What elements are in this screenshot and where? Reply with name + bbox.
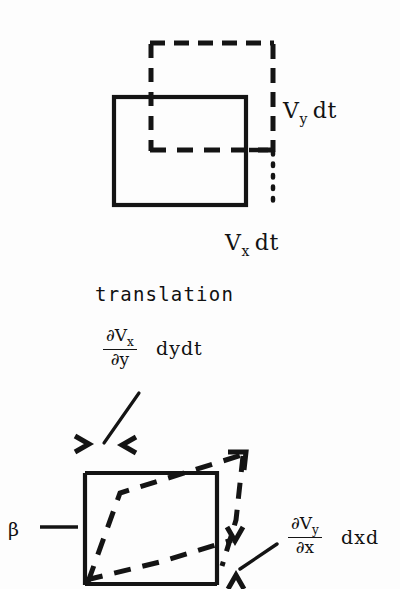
fraction-numerator-symbol: ∂V bbox=[291, 513, 312, 533]
label-vx-tail: dt bbox=[252, 230, 279, 255]
angle-mark-top-right-icon bbox=[122, 437, 136, 453]
label-beta: β bbox=[8, 518, 19, 540]
fraction-numerator: ∂Vx bbox=[103, 327, 137, 350]
angle-mark-right-lower-icon bbox=[228, 575, 244, 589]
fraction-numerator-symbol: ∂V bbox=[106, 325, 127, 345]
fraction-numerator-subscript: y bbox=[312, 523, 319, 537]
fraction-denominator: ∂x bbox=[288, 538, 322, 557]
label-vx-symbol: V bbox=[225, 230, 241, 255]
label-dvx-dy-fraction: ∂Vx ∂y bbox=[103, 327, 137, 369]
right-fraction-leader-line bbox=[240, 544, 277, 569]
angle-mark-top-left-icon bbox=[75, 436, 89, 452]
fraction-denominator: ∂y bbox=[103, 350, 137, 369]
label-vx-subscript: x bbox=[241, 243, 251, 259]
label-dvy-dx-fraction: ∂Vy ∂x bbox=[288, 515, 322, 557]
label-dvx-dy-tail: dydt bbox=[156, 337, 203, 359]
solid-undeformed-square bbox=[85, 473, 217, 585]
label-vy-dt: Vydt bbox=[283, 100, 337, 126]
label-dvy-dx-tail: dxd bbox=[341, 526, 379, 548]
fraction-numerator: ∂Vy bbox=[288, 515, 322, 538]
label-vy-subscript: y bbox=[299, 111, 309, 127]
figure-page: Vydt Vxdt translation ∂Vx ∂y dydt β ∂Vy … bbox=[0, 0, 400, 589]
label-vy-symbol: V bbox=[283, 98, 299, 123]
caption-translation: translation bbox=[95, 283, 234, 305]
label-vy-tail: dt bbox=[310, 98, 337, 123]
label-vx-dt: Vxdt bbox=[225, 232, 279, 258]
fraction-numerator-subscript: x bbox=[127, 335, 134, 349]
